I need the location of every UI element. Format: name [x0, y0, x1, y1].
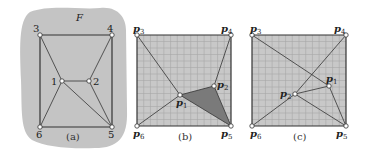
vertex-label-p4: p4: [221, 23, 233, 36]
vertex-2: [87, 79, 91, 83]
vertex-p2: [212, 84, 216, 88]
caption-a: (a): [66, 131, 80, 142]
vertex-p5: [344, 124, 348, 128]
vertex-label-1: 1: [51, 76, 57, 87]
vertex-1: [60, 79, 64, 83]
panel-a: F123456(a): [20, 8, 127, 149]
caption-c: (c): [293, 131, 307, 142]
vertex-label-p5: p5: [221, 128, 232, 141]
panel-c: p1p2p3p4p5p6(c): [250, 23, 348, 142]
vertex-p5: [229, 124, 233, 128]
vertex-label-4: 4: [107, 23, 113, 34]
vertex-label-p6: p6: [133, 128, 145, 141]
caption-b: (b): [178, 131, 192, 142]
vertex-label-p5: p5: [336, 128, 347, 141]
vertex-label-5: 5: [108, 129, 114, 140]
vertex-label-3: 3: [33, 23, 39, 34]
vertex-p1: [327, 84, 331, 88]
region-label-f: F: [75, 12, 84, 23]
vertex-label-p6: p6: [250, 128, 262, 141]
panel-b: p1p2p3p4p5p6(b): [133, 23, 233, 142]
vertex-label-2: 2: [93, 76, 99, 87]
vertex-label-6: 6: [36, 129, 42, 140]
vertex-p2: [293, 92, 297, 96]
vertex-label-p4: p4: [334, 23, 346, 36]
figure: F123456(a)p1p2p3p4p5p6(b)p1p2p3p4p5p6(c): [0, 0, 367, 154]
